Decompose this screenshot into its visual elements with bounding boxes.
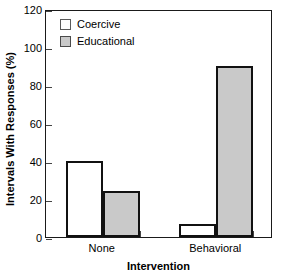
legend-label-coercive: Coercive	[77, 19, 120, 30]
y-axis-tick-label: 100	[16, 43, 42, 54]
x-axis-tick-label: None	[89, 242, 115, 254]
y-axis-tick	[46, 87, 52, 88]
bar-behavioral-educational	[216, 66, 253, 237]
bar-none-coercive	[66, 161, 103, 237]
x-axis-tick	[253, 231, 254, 237]
y-axis-tick	[46, 201, 52, 202]
y-axis-tick	[46, 49, 52, 50]
legend-item-coercive: Coercive	[60, 17, 135, 32]
plot-area: Coercive Educational	[45, 10, 272, 238]
x-axis-tick-label: Behavioral	[189, 242, 241, 254]
legend-label-educational: Educational	[77, 36, 135, 47]
legend: Coercive Educational	[60, 17, 135, 51]
y-axis-tick-label: 20	[16, 195, 42, 206]
legend-item-educational: Educational	[60, 34, 135, 49]
y-axis-tick-label: 0	[16, 233, 42, 244]
x-axis-tick	[140, 231, 141, 237]
y-axis-tick-label: 60	[16, 119, 42, 130]
y-axis-tick-labels: 020406080100120	[14, 10, 42, 238]
bar-behavioral-coercive	[179, 224, 216, 237]
legend-swatch-coercive	[60, 19, 71, 30]
y-axis-tick	[46, 125, 52, 126]
y-axis-tick-label: 120	[16, 5, 42, 16]
bar-chart-figure: Intervals With Responses (%) 02040608010…	[0, 0, 287, 280]
y-axis-tick	[46, 239, 52, 240]
x-axis-title: Intervention	[45, 260, 272, 272]
y-axis-tick-label: 40	[16, 157, 42, 168]
legend-swatch-educational	[60, 36, 71, 47]
y-axis-tick	[46, 163, 52, 164]
y-axis-tick-label: 80	[16, 81, 42, 92]
bar-none-educational	[103, 191, 140, 237]
x-axis-tick-labels: NoneBehavioral	[45, 242, 272, 256]
y-axis-tick	[46, 11, 52, 12]
